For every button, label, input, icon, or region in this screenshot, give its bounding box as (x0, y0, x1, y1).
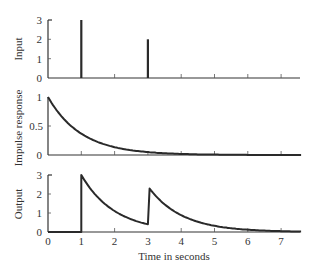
input-ylabel: Input (12, 37, 24, 60)
output-panel: Output 0 1 2 3 0 1 2 3 4 5 6 7 Time in s… (12, 169, 301, 262)
impulse-response-curve (48, 97, 301, 155)
xtick-1: 1 (79, 235, 85, 247)
xtick-5: 5 (212, 235, 218, 247)
xtick-6: 6 (245, 235, 251, 247)
impulse-ytick-0-5: 0.5 (29, 120, 43, 132)
xtick-3: 3 (145, 235, 151, 247)
impulse-response-panel: Impulse response 0 0.5 1 (12, 90, 301, 167)
input-ytick-2: 2 (37, 33, 43, 45)
output-ytick-0: 0 (37, 226, 43, 238)
input-ytick-3: 3 (37, 14, 43, 26)
input-panel: Input 0 1 2 3 (12, 14, 300, 84)
figure: Input 0 1 2 3 Impulse response 0 0.5 1 (0, 0, 314, 272)
output-ytick-3: 3 (37, 169, 43, 181)
input-ytick-1: 1 (37, 53, 43, 65)
impulse-ytick-1: 1 (37, 91, 43, 103)
input-ytick-0: 0 (37, 72, 43, 84)
output-ytick-2: 2 (37, 188, 43, 200)
xtick-4: 4 (178, 235, 184, 247)
impulse-ytick-0: 0 (37, 149, 43, 161)
impulse-response-ylabel: Impulse response (12, 90, 24, 167)
xtick-2: 2 (112, 235, 118, 247)
x-axis-label: Time in seconds (138, 250, 210, 262)
xtick-7: 7 (278, 235, 284, 247)
xtick-0: 0 (45, 235, 51, 247)
output-ytick-1: 1 (37, 207, 43, 219)
output-ylabel: Output (12, 189, 24, 220)
output-curve (48, 175, 301, 232)
